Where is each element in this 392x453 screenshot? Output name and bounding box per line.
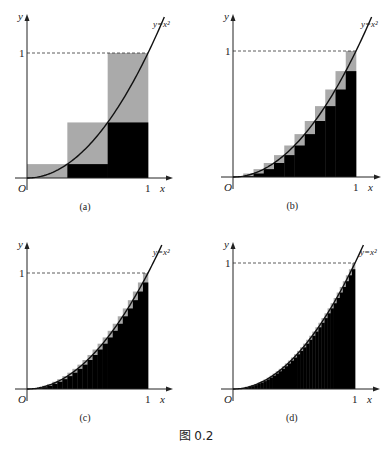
lower-rect <box>331 308 334 389</box>
lower-rect <box>123 316 128 389</box>
x-axis-label: x <box>159 393 165 405</box>
lower-rect <box>276 374 279 389</box>
lower-rect <box>321 323 324 389</box>
lower-rect <box>325 106 336 177</box>
lower-rect <box>340 293 343 389</box>
lower-rect <box>264 169 275 177</box>
lower-rect <box>349 275 352 389</box>
lower-rect <box>62 379 67 389</box>
lower-rect <box>93 355 98 389</box>
panel-caption: (b) <box>287 200 299 212</box>
x-arrow-icon <box>373 387 380 392</box>
curve-label: y=x² <box>152 247 170 257</box>
lower-rect <box>260 383 263 389</box>
y-axis-label: y <box>17 10 23 22</box>
lower-rect <box>343 287 346 389</box>
x-arrow-icon <box>374 175 381 180</box>
lower-rect <box>291 361 294 389</box>
origin-label: O <box>18 393 26 405</box>
panel-b: O1x1yy=x²(b) <box>221 10 381 212</box>
lower-rect <box>285 366 288 389</box>
curve-label: y=x² <box>152 19 170 29</box>
lower-rect <box>346 281 349 389</box>
lower-rect <box>57 382 62 389</box>
lower-rect <box>143 282 148 389</box>
x-axis-label: x <box>366 393 372 405</box>
x-tick-1: 1 <box>352 393 358 405</box>
lower-rect <box>113 331 118 389</box>
lower-rect <box>257 384 260 389</box>
riemann-sum-figure: O1x1yy=x²(a)O1x1yy=x²(b)O1x1yy=x²(c)O1x1… <box>0 0 392 453</box>
lower-rect <box>318 327 321 389</box>
lower-rect <box>346 71 357 177</box>
lower-rect <box>284 155 295 177</box>
lower-rect <box>103 344 108 389</box>
y-arrow-icon <box>231 14 236 21</box>
lower-rect <box>138 292 143 389</box>
lower-rect <box>306 344 309 389</box>
x-arrow-icon <box>166 176 173 181</box>
lower-rect <box>337 298 340 389</box>
x-tick-1: 1 <box>145 182 151 194</box>
lower-rect <box>67 376 72 389</box>
y-arrow-icon <box>25 14 30 21</box>
lower-rect <box>82 365 87 389</box>
lower-rect <box>295 146 306 178</box>
lower-rect <box>254 385 257 389</box>
lower-rect <box>88 360 93 389</box>
lower-rect <box>270 378 273 389</box>
lower-rect <box>264 381 267 389</box>
y-arrow-icon <box>25 242 30 249</box>
lower-rect <box>108 337 113 389</box>
lower-rect <box>297 354 300 389</box>
panel-a: O1x1yy=x²(a) <box>15 10 173 213</box>
lower-rect <box>108 122 149 178</box>
lower-rect <box>325 318 328 389</box>
lower-rect <box>128 308 133 389</box>
lower-rect <box>133 300 138 389</box>
lower-rect <box>336 90 347 178</box>
lower-rect <box>312 336 315 389</box>
y-axis-label: y <box>223 10 229 22</box>
panel-d: O1x1yy=x²(d) <box>221 238 380 424</box>
lower-rect <box>279 371 282 389</box>
panel-caption: (d) <box>286 412 298 424</box>
curve-label: y=x² <box>360 19 378 29</box>
lower-rect <box>118 324 123 389</box>
lower-rect <box>254 174 265 178</box>
lower-rect <box>303 347 306 389</box>
panel-c: O1x1yy=x²(c) <box>15 238 173 424</box>
lower-rect <box>98 350 103 389</box>
x-arrow-icon <box>166 387 173 392</box>
lower-rect <box>273 376 276 389</box>
x-tick-1: 1 <box>353 181 359 193</box>
lower-rect <box>300 351 303 389</box>
lower-rect <box>334 303 337 389</box>
y-axis-label: y <box>223 238 229 250</box>
y-tick-1: 1 <box>19 47 25 59</box>
upper-rect <box>27 164 68 178</box>
lower-rect <box>315 332 318 389</box>
lower-rect <box>274 163 285 177</box>
lower-rect <box>352 269 355 389</box>
y-tick-1: 1 <box>225 257 231 269</box>
y-tick-1: 1 <box>19 267 25 279</box>
lower-rect <box>309 340 312 389</box>
lower-rect <box>315 121 326 177</box>
x-axis-label: x <box>367 181 373 193</box>
y-arrow-icon <box>231 242 236 249</box>
x-axis-label: x <box>159 182 165 194</box>
lower-rect <box>305 134 316 177</box>
y-axis-label: y <box>17 238 23 250</box>
lower-rect <box>77 369 82 389</box>
lower-rect <box>294 358 297 390</box>
lower-rect <box>282 369 285 389</box>
panel-caption: (a) <box>80 201 91 213</box>
panel-caption: (c) <box>80 412 91 424</box>
curve-label: y=x² <box>359 247 377 257</box>
figure-caption: 图 0.2 <box>0 426 392 443</box>
y-tick-1: 1 <box>225 45 231 57</box>
lower-rect <box>267 379 270 389</box>
origin-label: O <box>18 182 26 194</box>
lower-rect <box>288 363 291 389</box>
